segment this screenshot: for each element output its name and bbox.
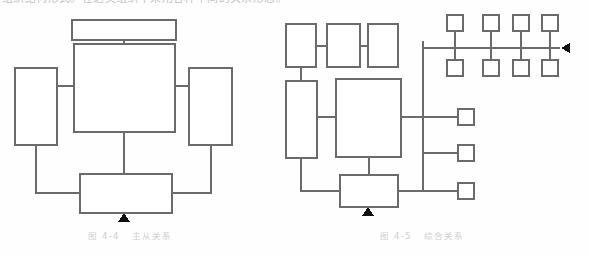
fig45-grid-node-top-3 <box>513 15 529 31</box>
fig45-grid-node-top-2 <box>483 15 499 31</box>
fig45-grid-node-top-1 <box>447 15 463 31</box>
diagram-canvas <box>0 0 589 256</box>
fig45-center-box <box>336 79 401 157</box>
fig44-bottom-box <box>80 174 172 213</box>
fig44-left-box <box>15 68 57 145</box>
fig45-bottom-box <box>340 175 398 207</box>
figure-4-4-caption-number: 图 4-4 <box>88 231 120 241</box>
connector-left-to-bottom <box>36 145 80 193</box>
fig45-side-node-1 <box>458 109 474 125</box>
fig45-grid-node-bottom-3 <box>513 60 529 76</box>
fig45-grid-node-bottom-4 <box>542 60 558 76</box>
fig45-side-node-3 <box>458 183 474 199</box>
figure-4-5-caption-title: 综合关系 <box>424 231 465 241</box>
fig45-left-tall-box <box>286 81 317 158</box>
fig45-top-box-3 <box>368 24 398 67</box>
figure-4-5-group <box>286 15 570 216</box>
connector-lefttall-to-bottom <box>301 158 340 191</box>
figure-4-4-caption: 图 4-4 主从关系 <box>88 229 172 241</box>
fig44-center-box <box>74 44 175 132</box>
figure-4-4-caption-title: 主从关系 <box>132 231 173 241</box>
fig45-side-node-2 <box>458 145 474 161</box>
figure-4-5-caption-number: 图 4-5 <box>380 231 412 241</box>
connector-right-to-bottom <box>172 145 211 193</box>
fig45-grid-node-bottom-2 <box>483 60 499 76</box>
fig44-right-box <box>189 68 232 145</box>
fig45-left-triangle-marker <box>561 43 570 53</box>
fig45-up-triangle-marker <box>362 207 374 216</box>
fig44-top-box <box>72 20 176 40</box>
fig44-up-triangle-marker <box>118 213 130 222</box>
fig45-grid-node-bottom-1 <box>447 60 463 76</box>
figure-4-5-caption: 图 4-5 综合关系 <box>380 229 464 241</box>
scanned-page: 组织结构形式。在这类组织中采用各种不同的关系形态。 <box>0 0 589 256</box>
fig45-top-box-1 <box>286 24 316 67</box>
fig45-top-box-2 <box>327 24 360 67</box>
fig45-grid-node-top-4 <box>542 15 558 31</box>
figure-4-4-group <box>15 20 232 222</box>
